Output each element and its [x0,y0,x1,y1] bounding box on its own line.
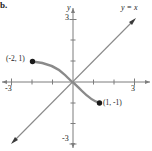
point-marker-a [30,59,35,64]
x-tick-label-negative: -3 [5,85,12,93]
item-letter: b. [0,1,7,10]
y-axis-label: y [67,4,71,12]
y-tick-label-negative: -3 [62,135,69,143]
point-label-b: (1, -1) [103,99,122,107]
coordinate-plane-svg [0,0,152,151]
reference-line-label: y = x [121,4,138,12]
point-label-a: (-2, 1) [6,55,25,63]
graph-figure: b. y = x y 3 -3 -3 3 (-2, 1) (1, -1) [0,0,152,151]
point-marker-b [97,100,102,105]
y-axis [71,8,75,148]
y-tick-label-positive: 3 [65,14,69,22]
x-tick-label-positive: 3 [131,85,135,93]
x-axis [2,80,150,84]
